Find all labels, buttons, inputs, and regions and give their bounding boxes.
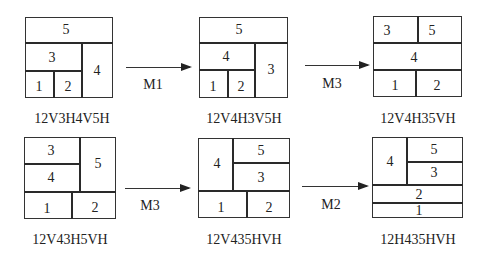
module-label: 2 <box>92 201 99 215</box>
module-label: 2 <box>416 188 423 202</box>
module-label: 2 <box>266 201 273 215</box>
module-label: 5 <box>429 24 436 38</box>
arrowhead-icon <box>181 63 192 71</box>
vertical-cut-line <box>417 16 419 43</box>
move-label: M3 <box>140 199 159 213</box>
horizontal-cut-line <box>233 162 290 164</box>
horizontal-cut-line <box>373 69 462 71</box>
module-label: 5 <box>236 23 243 37</box>
module-label: 1 <box>218 201 225 215</box>
slicing-floorplan-p4 <box>24 137 116 219</box>
module-label: 2 <box>65 80 72 94</box>
horizontal-cut-line <box>198 190 290 192</box>
polish-expression-caption: 12V435HVH <box>206 233 281 247</box>
horizontal-cut-line <box>24 163 80 165</box>
vertical-cut-line <box>232 138 234 191</box>
module-label: 5 <box>95 157 102 171</box>
polish-expression-caption: 12V43H5VH <box>32 233 107 247</box>
module-label: 3 <box>431 166 438 180</box>
move-arrow <box>305 65 368 66</box>
module-label: 1 <box>392 79 399 93</box>
module-label: 5 <box>258 144 265 158</box>
polish-expression-caption: 12V3H4V5H <box>34 112 109 126</box>
move-label: M1 <box>143 78 162 92</box>
vertical-cut-line <box>79 137 81 192</box>
polish-expression-caption: 12V4H35VH <box>380 112 455 126</box>
module-label: 5 <box>63 23 70 37</box>
arrowhead-icon <box>359 61 370 69</box>
vertical-cut-line <box>415 70 417 97</box>
vertical-cut-line <box>406 137 408 185</box>
module-label: 4 <box>214 157 221 171</box>
module-label: 3 <box>384 24 391 38</box>
slicing-floorplan-p5 <box>198 138 290 218</box>
floorplan-move-diagram: 5341212V3H4V5H5431212V4H3V5H3541212V4H35… <box>0 0 485 262</box>
polish-expression-caption: 12H435HVH <box>380 233 455 247</box>
module-label: 1 <box>36 80 43 94</box>
module-label: 3 <box>48 144 55 158</box>
module-label: 2 <box>238 80 245 94</box>
module-label: 3 <box>258 171 265 185</box>
horizontal-cut-line <box>25 42 113 44</box>
module-label: 4 <box>48 171 55 185</box>
module-label: 1 <box>416 204 423 218</box>
move-arrow <box>126 67 190 68</box>
horizontal-cut-line <box>372 184 463 186</box>
vertical-cut-line <box>71 192 73 219</box>
horizontal-cut-line <box>199 42 288 44</box>
horizontal-cut-line <box>407 161 463 163</box>
module-label: 1 <box>210 80 217 94</box>
module-label: 4 <box>94 64 101 78</box>
module-label: 3 <box>268 63 275 77</box>
arrowhead-icon <box>358 182 369 190</box>
arrowhead-icon <box>180 184 191 192</box>
module-label: 5 <box>431 143 438 157</box>
move-arrow <box>125 188 189 189</box>
move-arrow <box>302 186 367 187</box>
move-label: M3 <box>322 77 341 91</box>
module-label: 4 <box>411 51 418 65</box>
module-label: 4 <box>387 155 394 169</box>
polish-expression-caption: 12V4H3V5H <box>206 112 281 126</box>
vertical-cut-line <box>53 71 55 98</box>
module-label: 4 <box>223 50 230 64</box>
module-label: 3 <box>49 51 56 65</box>
module-label: 2 <box>434 79 441 93</box>
vertical-cut-line <box>81 43 83 98</box>
horizontal-cut-line <box>24 191 116 193</box>
vertical-cut-line <box>254 43 256 98</box>
module-label: 1 <box>44 202 51 216</box>
vertical-cut-line <box>246 191 248 218</box>
vertical-cut-line <box>227 70 229 98</box>
move-label: M2 <box>321 198 340 212</box>
